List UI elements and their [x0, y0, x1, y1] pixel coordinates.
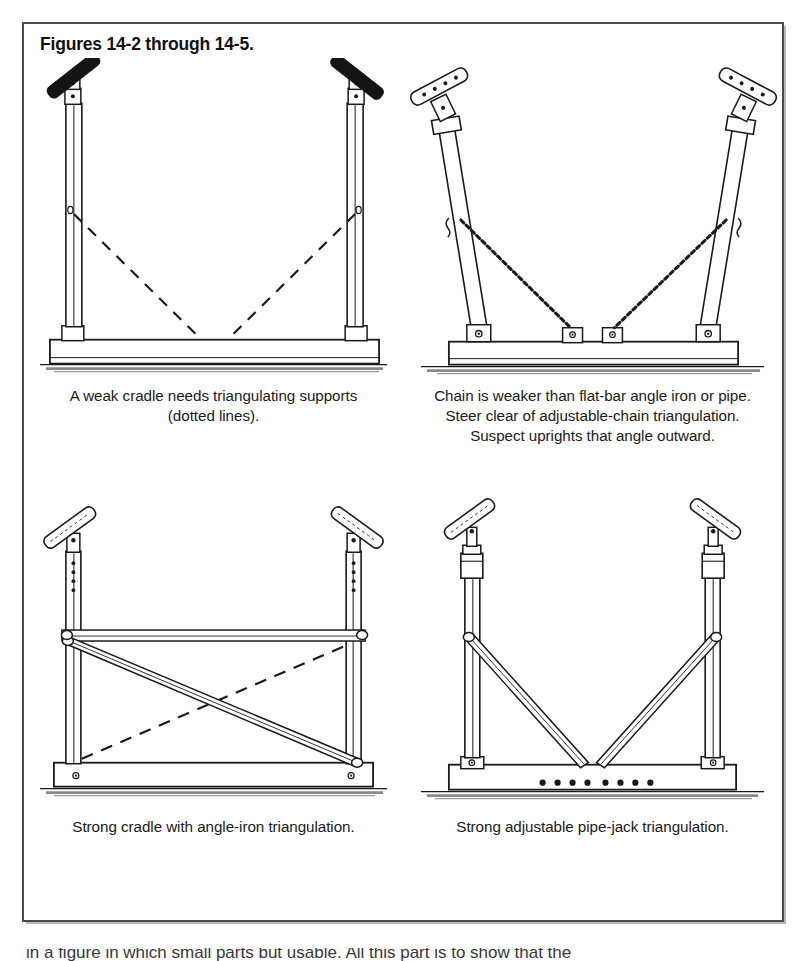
- caption-figure-14-5: Strong adjustable pipe-jack triangulatio…: [443, 817, 743, 837]
- figure-title: Figures 14-2 through 14-5.: [40, 34, 254, 55]
- panel-grid: A weak cradle needs triangulating suppor…: [24, 58, 782, 920]
- caption-figure-14-4: Strong cradle with angle-iron triangulat…: [64, 817, 364, 837]
- chain-triangulation-diagram: [403, 58, 782, 380]
- page-text-bleed: in a figure in which small parts but usa…: [26, 948, 780, 961]
- panel-figure-14-4: Strong cradle with angle-iron triangulat…: [24, 489, 403, 920]
- panel-figure-14-5: Strong adjustable pipe-jack triangulatio…: [403, 489, 782, 920]
- caption-figure-14-2: A weak cradle needs triangulating suppor…: [64, 386, 364, 426]
- caption-figure-14-3: Chain is weaker than flat-bar angle iron…: [433, 386, 753, 445]
- figure-box: Figures 14-2 through 14-5.: [22, 22, 784, 922]
- panel-figure-14-2: A weak cradle needs triangulating suppor…: [24, 58, 403, 489]
- page-text-bleed-line: in a figure in which small parts but usa…: [26, 948, 780, 961]
- pipe-jack-triangulation-diagram: [403, 489, 782, 811]
- weak-cradle-diagram: [24, 58, 403, 380]
- angle-iron-triangulation-diagram: [24, 489, 403, 811]
- panel-figure-14-3: Chain is weaker than flat-bar angle iron…: [403, 58, 782, 489]
